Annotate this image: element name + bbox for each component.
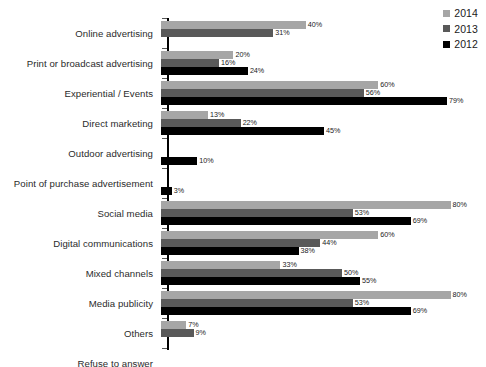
category-label: Media publicity bbox=[0, 298, 160, 309]
bar-2014[interactable] bbox=[161, 111, 208, 119]
chart-category-row: Print or broadcast advertising20%16%24% bbox=[0, 48, 486, 78]
bar-2014[interactable] bbox=[161, 81, 378, 89]
bar-2014[interactable] bbox=[161, 321, 186, 329]
bar-2012[interactable] bbox=[161, 247, 299, 255]
bar-value-label: 79% bbox=[449, 97, 463, 104]
bar-value-label: 24% bbox=[250, 67, 264, 74]
category-label: Digital communications bbox=[0, 238, 160, 249]
bar-group: 20%16%24% bbox=[160, 48, 486, 78]
bar-2013[interactable] bbox=[161, 59, 219, 67]
bar-2013[interactable] bbox=[161, 269, 342, 277]
bar-line-2012: 10% bbox=[161, 157, 486, 165]
chart-category-row: Online advertising40%31% bbox=[0, 18, 486, 48]
chart-category-row: Mixed channels33%50%55% bbox=[0, 258, 486, 288]
bar-2012[interactable] bbox=[161, 97, 447, 105]
bar-group: 60%44%38% bbox=[160, 228, 486, 258]
category-label: Refuse to answer bbox=[0, 358, 160, 367]
bar-2014[interactable] bbox=[161, 201, 451, 209]
bar-2012[interactable] bbox=[161, 277, 360, 285]
bar-value-label: 60% bbox=[380, 231, 394, 238]
bar-value-label: 3% bbox=[174, 187, 184, 194]
bar-value-label: 10% bbox=[199, 157, 213, 164]
category-label: Others bbox=[0, 328, 160, 339]
bar-group: 7%9% bbox=[160, 318, 486, 348]
legend-label: 2014 bbox=[454, 8, 478, 19]
legend-item-2014[interactable]: 2014 bbox=[443, 8, 478, 19]
bar-2013[interactable] bbox=[161, 239, 320, 247]
bar-line-2012 bbox=[161, 37, 486, 45]
plot-area: Online advertising40%31%Print or broadca… bbox=[0, 18, 486, 358]
bar-group: 33%50%55% bbox=[160, 258, 486, 288]
bar-line-2013: 44% bbox=[161, 239, 486, 247]
chart-category-row: Media publicity80%53%69% bbox=[0, 288, 486, 318]
bar-line-2012 bbox=[161, 337, 486, 345]
bar-2012[interactable] bbox=[161, 307, 411, 315]
category-label: Social media bbox=[0, 208, 160, 219]
bar-line-2012: 55% bbox=[161, 277, 486, 285]
bar-group: 10% bbox=[160, 348, 486, 367]
bar-2014[interactable] bbox=[161, 261, 280, 269]
bar-group: 80%53%69% bbox=[160, 288, 486, 318]
bar-line-2014 bbox=[161, 171, 486, 179]
bar-line-2014: 7% bbox=[161, 321, 486, 329]
category-label: Outdoor advertising bbox=[0, 148, 160, 159]
bar-value-label: 9% bbox=[196, 329, 206, 336]
bar-line-2013: 22% bbox=[161, 119, 486, 127]
bar-line-2014: 33% bbox=[161, 261, 486, 269]
bar-value-label: 20% bbox=[235, 51, 249, 58]
bar-line-2012: 79% bbox=[161, 97, 486, 105]
bar-value-label: 33% bbox=[282, 261, 296, 268]
bar-2013[interactable] bbox=[161, 299, 353, 307]
bar-2012[interactable] bbox=[161, 187, 172, 195]
bar-value-label: 44% bbox=[322, 239, 336, 246]
bar-value-label: 38% bbox=[301, 247, 315, 254]
bar-value-label: 31% bbox=[275, 29, 289, 36]
bar-2014[interactable] bbox=[161, 291, 451, 299]
bar-line-2012: 45% bbox=[161, 127, 486, 135]
bar-line-2013 bbox=[161, 179, 486, 187]
bar-2013[interactable] bbox=[161, 89, 364, 97]
chart-category-row: Digital communications60%44%38% bbox=[0, 228, 486, 258]
bar-group: 13%22%45% bbox=[160, 108, 486, 138]
bar-line-2013: 50% bbox=[161, 269, 486, 277]
bar-line-2012: 69% bbox=[161, 307, 486, 315]
bar-line-2013: 53% bbox=[161, 299, 486, 307]
chart-category-row: Experiential / Events60%56%79% bbox=[0, 78, 486, 108]
bar-2012[interactable] bbox=[161, 217, 411, 225]
bar-2013[interactable] bbox=[161, 119, 241, 127]
bar-value-label: 80% bbox=[453, 201, 467, 208]
bar-group: 10% bbox=[160, 138, 486, 168]
category-label: Print or broadcast advertising bbox=[0, 58, 160, 69]
bar-2012[interactable] bbox=[161, 127, 324, 135]
chart-category-row: Social media80%53%69% bbox=[0, 198, 486, 228]
bar-line-2014: 13% bbox=[161, 111, 486, 119]
bar-value-label: 53% bbox=[355, 209, 369, 216]
bar-chart: 201420132012 Online advertising40%31%Pri… bbox=[0, 0, 486, 367]
bar-value-label: 22% bbox=[243, 119, 257, 126]
bar-line-2013: 9% bbox=[161, 329, 486, 337]
bar-line-2013: 31% bbox=[161, 29, 486, 37]
category-label: Direct marketing bbox=[0, 118, 160, 129]
bar-2013[interactable] bbox=[161, 29, 273, 37]
bar-2013[interactable] bbox=[161, 329, 194, 337]
bar-line-2014: 40% bbox=[161, 21, 486, 29]
bar-line-2014: 20% bbox=[161, 51, 486, 59]
chart-category-row: Direct marketing13%22%45% bbox=[0, 108, 486, 138]
bar-value-label: 80% bbox=[453, 291, 467, 298]
bar-value-label: 60% bbox=[380, 81, 394, 88]
bar-group: 60%56%79% bbox=[160, 78, 486, 108]
bar-2013[interactable] bbox=[161, 209, 353, 217]
bar-value-label: 56% bbox=[366, 89, 380, 96]
bar-2014[interactable] bbox=[161, 231, 378, 239]
bar-2012[interactable] bbox=[161, 67, 248, 75]
bar-line-2012: 24% bbox=[161, 67, 486, 75]
bar-line-2013: 56% bbox=[161, 89, 486, 97]
bar-line-2013: 16% bbox=[161, 59, 486, 67]
bar-line-2014: 80% bbox=[161, 201, 486, 209]
bar-2012[interactable] bbox=[161, 157, 197, 165]
bar-group: 40%31% bbox=[160, 18, 486, 48]
category-label: Point of purchase advertisement bbox=[0, 178, 160, 189]
bar-line-2014 bbox=[161, 351, 486, 359]
legend-swatch-icon bbox=[443, 10, 450, 17]
chart-category-row: Refuse to answer10% bbox=[0, 348, 486, 367]
